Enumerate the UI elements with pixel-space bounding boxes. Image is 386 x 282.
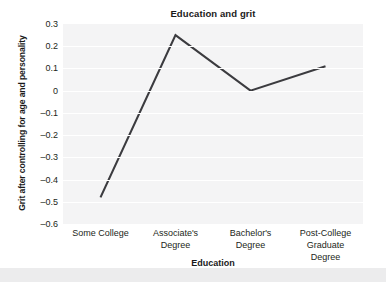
x-axis-tick-labels: Some CollegeAssociate'sDegreeBachelor'sD… bbox=[63, 227, 363, 257]
gridline bbox=[63, 46, 363, 47]
y-tick-label: 0.1 bbox=[2, 63, 58, 73]
x-tick-label-line: Degree bbox=[213, 239, 288, 251]
y-tick-label: –0.2 bbox=[2, 130, 58, 140]
chart-figure: Education and grit Grit after controllin… bbox=[0, 0, 386, 282]
y-tick-label: 0.2 bbox=[2, 41, 58, 51]
y-axis-tick-labels: 0.30.20.10–0.1–0.2–0.3–0.4–0.5–0.6 bbox=[0, 24, 58, 224]
y-tick-label: –0.4 bbox=[2, 175, 58, 185]
x-tick-label: Associate'sDegree bbox=[138, 227, 213, 251]
gridline bbox=[63, 135, 363, 136]
x-tick-label: Bachelor'sDegree bbox=[213, 227, 288, 251]
x-tick-label-line: Associate's bbox=[138, 227, 213, 239]
y-tick-label: –0.1 bbox=[2, 108, 58, 118]
gridline bbox=[63, 157, 363, 158]
x-tick-label-line: Bachelor's bbox=[213, 227, 288, 239]
x-axis-title: Education bbox=[63, 258, 363, 268]
gridline bbox=[63, 202, 363, 203]
plot-area bbox=[63, 24, 363, 224]
series-polyline bbox=[101, 35, 326, 197]
x-tick-label-line: Degree bbox=[138, 239, 213, 251]
gridline bbox=[63, 91, 363, 92]
gridline bbox=[63, 113, 363, 114]
gridline bbox=[63, 68, 363, 69]
page-edge-band bbox=[0, 268, 386, 282]
y-tick-label: 0.3 bbox=[2, 19, 58, 29]
gridline bbox=[63, 224, 363, 225]
y-tick-label: 0 bbox=[2, 86, 58, 96]
y-tick-label: –0.5 bbox=[2, 197, 58, 207]
x-tick-label-line: Post-College Graduate bbox=[288, 227, 363, 251]
chart-title: Education and grit bbox=[63, 8, 363, 19]
x-tick-label-line: Some College bbox=[63, 227, 138, 239]
gridline bbox=[63, 180, 363, 181]
y-tick-label: –0.3 bbox=[2, 152, 58, 162]
x-tick-label: Some College bbox=[63, 227, 138, 239]
series-line bbox=[63, 24, 363, 224]
y-tick-label: –0.6 bbox=[2, 219, 58, 229]
